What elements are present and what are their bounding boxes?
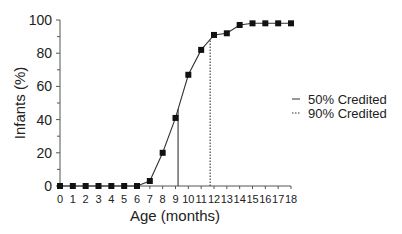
x-tick-label: 8 <box>160 193 166 205</box>
data-point-marker <box>211 32 217 38</box>
x-axis: 0123456789101112131415161718 <box>57 186 297 205</box>
data-point-marker <box>70 183 76 189</box>
x-tick-label: 11 <box>195 193 206 205</box>
x-tick-label: 13 <box>221 193 233 205</box>
data-point-marker <box>262 20 268 26</box>
x-tick-label: 6 <box>134 193 140 205</box>
reference-lines <box>178 39 210 186</box>
x-tick-label: 3 <box>95 193 101 205</box>
x-tick-label: 14 <box>234 193 246 205</box>
data-point-marker <box>121 183 127 189</box>
y-tick-label: 80 <box>36 45 52 61</box>
data-point-marker <box>224 30 230 36</box>
x-tick-label: 18 <box>285 193 297 205</box>
legend-label-50: 50% Credited <box>308 92 387 107</box>
data-point-marker <box>108 183 114 189</box>
data-point-marker <box>57 183 63 189</box>
y-axis-label: Infants (%) <box>11 67 28 140</box>
y-tick-label: 60 <box>36 78 52 94</box>
x-tick-label: 2 <box>83 193 89 205</box>
data-point-marker <box>96 183 102 189</box>
x-tick-label: 1 <box>70 193 76 205</box>
x-tick-label: 16 <box>259 193 271 205</box>
data-point-marker <box>275 20 281 26</box>
y-tick-label: 40 <box>36 112 52 128</box>
x-tick-label: 12 <box>208 193 220 205</box>
data-point-marker <box>198 47 204 53</box>
x-tick-label: 17 <box>272 193 284 205</box>
x-tick-label: 5 <box>121 193 127 205</box>
data-point-marker <box>173 115 179 121</box>
y-tick-label: 0 <box>44 178 52 194</box>
data-point-marker <box>147 178 153 184</box>
chart: 020406080100 012345678910111213141516171… <box>0 0 402 234</box>
x-axis-label: Age (months) <box>130 207 220 224</box>
data-point-marker <box>160 150 166 156</box>
data-point-marker <box>83 183 89 189</box>
x-tick-label: 7 <box>147 193 153 205</box>
y-tick-label: 100 <box>29 12 53 28</box>
x-tick-label: 15 <box>246 193 258 205</box>
y-axis: 020406080100 <box>29 12 60 194</box>
y-tick-label: 20 <box>36 145 52 161</box>
data-point-marker <box>288 20 294 26</box>
x-tick-label: 4 <box>108 193 114 205</box>
data-series <box>57 20 294 189</box>
x-tick-label: 0 <box>57 193 63 205</box>
data-point-marker <box>250 20 256 26</box>
x-tick-label: 10 <box>182 193 194 205</box>
data-point-marker <box>237 22 243 28</box>
data-point-marker <box>134 183 140 189</box>
data-point-marker <box>185 72 191 78</box>
legend: 50% Credited 90% Credited <box>292 92 387 121</box>
legend-label-90: 90% Credited <box>308 106 387 121</box>
x-tick-label: 9 <box>172 193 178 205</box>
